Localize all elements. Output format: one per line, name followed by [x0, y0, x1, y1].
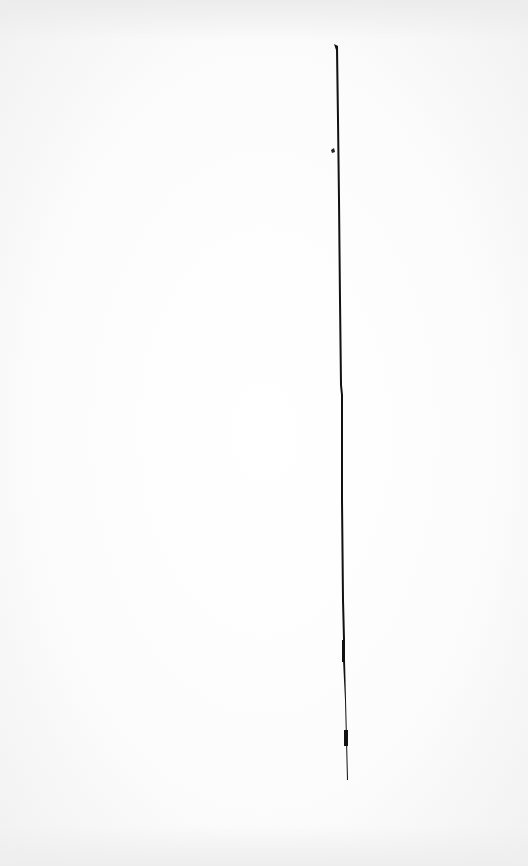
vertical-rule-line: [0, 0, 528, 866]
scanned-page: [0, 0, 528, 866]
